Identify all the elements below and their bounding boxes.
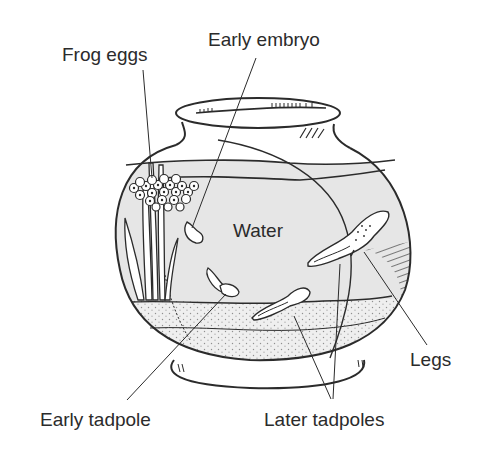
label-water: Water	[233, 221, 283, 240]
label-early-tadpole: Early tadpole	[40, 410, 151, 429]
label-frog-eggs: Frog eggs	[62, 45, 148, 64]
label-legs: Legs	[410, 350, 451, 369]
frog-lifecycle-diagram: Frog eggs Early embryo Water Legs Early …	[0, 0, 494, 455]
label-early-embryo: Early embryo	[208, 30, 320, 49]
label-later-tadpoles: Later tadpoles	[264, 410, 384, 429]
